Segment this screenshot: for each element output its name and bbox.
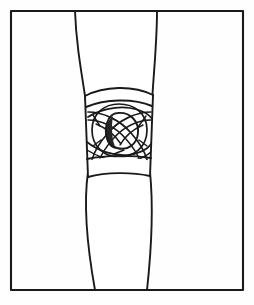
knee-bandage-illustration: [0, 0, 254, 305]
knee-bandage: [85, 88, 153, 177]
calf-fill: [86, 172, 152, 289]
figure-root: Knee with woven elastic knee bandage Thi…: [0, 0, 254, 305]
